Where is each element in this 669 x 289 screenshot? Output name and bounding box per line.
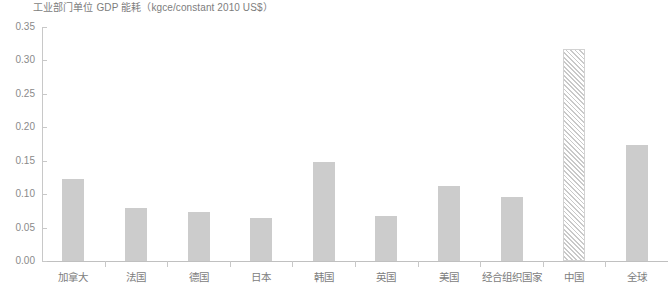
y-axis-tick: 0.15 bbox=[42, 161, 43, 162]
x-axis-tick-mark bbox=[605, 261, 606, 267]
bar bbox=[375, 216, 397, 261]
x-axis-tick-mark bbox=[230, 261, 231, 267]
chart-title: 工业部门单位 GDP 能耗（kgce/constant 2010 US$） bbox=[33, 2, 273, 14]
bar-chart: 工业部门单位 GDP 能耗（kgce/constant 2010 US$） 0.… bbox=[0, 0, 669, 289]
y-axis-tick-mark bbox=[42, 161, 47, 162]
x-axis-label: 法国 bbox=[126, 270, 146, 284]
x-axis-label: 加拿大 bbox=[58, 270, 88, 284]
y-axis-tick-label: 0.20 bbox=[16, 120, 35, 133]
y-axis-tick-mark bbox=[42, 261, 47, 262]
bar bbox=[188, 212, 210, 261]
x-axis-tick-mark bbox=[418, 261, 419, 267]
x-axis-tick-mark bbox=[355, 261, 356, 267]
y-axis-tick-mark bbox=[42, 94, 47, 95]
bar bbox=[62, 179, 84, 261]
y-axis-tick-label: 0.35 bbox=[16, 20, 35, 33]
bar bbox=[563, 49, 585, 261]
x-axis-label: 经合组织国家 bbox=[482, 270, 542, 284]
y-axis-line bbox=[42, 27, 43, 261]
x-axis-label: 美国 bbox=[439, 270, 459, 284]
x-axis-label: 日本 bbox=[251, 270, 271, 284]
bar bbox=[626, 145, 648, 261]
x-axis-label: 韩国 bbox=[314, 270, 334, 284]
bar bbox=[313, 162, 335, 261]
y-axis-tick: 0.30 bbox=[42, 60, 43, 61]
x-axis-tick-mark bbox=[480, 261, 481, 267]
y-axis-tick-label: 0.30 bbox=[16, 53, 35, 66]
x-axis-label: 全球 bbox=[627, 270, 647, 284]
bar bbox=[250, 218, 272, 261]
y-axis-tick: 0.05 bbox=[42, 228, 43, 229]
y-axis-tick-mark bbox=[42, 228, 47, 229]
y-axis-tick-label: 0.00 bbox=[16, 254, 35, 267]
y-axis-tick: 0.20 bbox=[42, 127, 43, 128]
y-axis-tick-label: 0.10 bbox=[16, 187, 35, 200]
y-axis-tick: 0.35 bbox=[42, 27, 43, 28]
y-axis-tick-mark bbox=[42, 127, 47, 128]
y-axis-tick: 0.10 bbox=[42, 194, 43, 195]
y-axis-tick: 0.25 bbox=[42, 94, 43, 95]
y-axis-tick: 0.00 bbox=[42, 261, 43, 262]
y-axis-tick-label: 0.05 bbox=[16, 221, 35, 234]
bar bbox=[438, 186, 460, 261]
x-axis-tick-mark bbox=[292, 261, 293, 267]
x-axis-label: 英国 bbox=[376, 270, 396, 284]
x-axis-tick-mark bbox=[543, 261, 544, 267]
y-axis-tick-label: 0.25 bbox=[16, 87, 35, 100]
y-axis-tick-mark bbox=[42, 194, 47, 195]
x-axis-tick-mark bbox=[167, 261, 168, 267]
x-axis-label: 中国 bbox=[564, 270, 584, 284]
x-axis-tick-mark bbox=[105, 261, 106, 267]
y-axis-tick-mark bbox=[42, 27, 47, 28]
bar bbox=[125, 208, 147, 261]
y-axis-tick-mark bbox=[42, 60, 47, 61]
x-axis-label: 德国 bbox=[189, 270, 209, 284]
y-axis-tick-label: 0.15 bbox=[16, 154, 35, 167]
bar bbox=[501, 197, 523, 261]
